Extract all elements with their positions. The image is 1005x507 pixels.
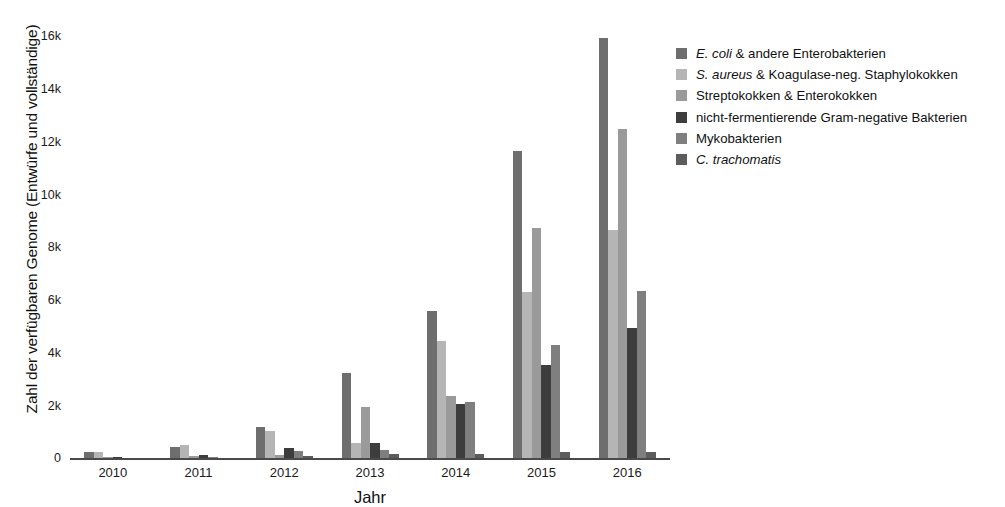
legend-label: S. aureus & Koagulase-neg. Staphylokokke… [696, 68, 958, 81]
bar-group-2014 [413, 36, 499, 458]
bar-group-2015 [499, 36, 585, 458]
y-axis-tick-label: 2k [1, 399, 70, 413]
bar [608, 230, 618, 458]
y-axis-tick-label: 10k [1, 188, 70, 202]
legend-label: C. trachomatis [696, 153, 781, 166]
bar [637, 291, 647, 458]
legend-swatch-icon [676, 48, 687, 59]
legend-swatch-icon [676, 90, 687, 101]
legend-label: Mykobakterien [696, 132, 782, 145]
legend-item-1[interactable]: E. coli & andere Enterobakterien [676, 47, 1001, 61]
x-axis-tick-label: 2016 [584, 465, 670, 480]
legend-item-2[interactable]: S. aureus & Koagulase-neg. Staphylokokke… [676, 68, 1001, 82]
bar [465, 402, 475, 459]
bar [532, 228, 542, 459]
bar [437, 341, 447, 458]
bar [427, 311, 437, 459]
bar [180, 445, 190, 459]
bar [618, 129, 628, 459]
y-axis-tick-label: 6k [1, 293, 70, 307]
y-axis-tick-label: 8k [1, 240, 70, 254]
bar [456, 404, 466, 458]
y-axis-tick-label: 4k [1, 346, 70, 360]
bar [599, 38, 609, 459]
bar [446, 396, 456, 458]
bar [522, 292, 532, 458]
x-axis-tick-label: 2012 [241, 465, 327, 480]
y-axis-title: Zahl der verfügbaren Genome (Entwürfe un… [23, 0, 41, 449]
legend-label: E. coli & andere Enterobakterien [696, 47, 886, 60]
bar-group-2013 [327, 36, 413, 458]
legend-item-4[interactable]: nicht-fermentierende Gram-negative Bakte… [676, 111, 1001, 125]
x-axis-title: Jahr [70, 488, 670, 507]
legend-item-5[interactable]: Mykobakterien [676, 132, 1001, 146]
x-axis-line [70, 458, 670, 460]
bar-group-2011 [156, 36, 242, 458]
bar [361, 407, 371, 458]
bar [370, 443, 380, 459]
x-axis-tick-label: 2010 [70, 465, 156, 480]
bar [342, 373, 352, 459]
x-axis-tick-label: 2015 [499, 465, 585, 480]
plot-area: 02k4k6k8k10k12k14k16k 201020112012201320… [70, 36, 670, 460]
x-axis-tick-label: 2011 [156, 465, 242, 480]
bar-series-container [70, 36, 670, 458]
legend-swatch-icon [676, 154, 687, 165]
y-axis-tick-label: 0 [1, 451, 70, 465]
bar [294, 451, 304, 459]
legend-label: Streptokokken & Enterokokken [696, 89, 877, 102]
bar [84, 452, 94, 459]
bar [513, 151, 523, 458]
bar-group-2010 [70, 36, 156, 458]
y-axis-tick-label: 14k [1, 82, 70, 96]
x-axis-ticks: 2010201120122013201420152016 [70, 465, 670, 480]
bar [541, 365, 551, 459]
bar-group-2012 [241, 36, 327, 458]
bar [284, 448, 294, 459]
y-axis-tick-label: 12k [1, 135, 70, 149]
bar [551, 345, 561, 458]
bar [265, 431, 275, 459]
bar-group-2016 [584, 36, 670, 458]
bar [256, 427, 266, 459]
chart-legend: E. coli & andere EnterobakterienS. aureu… [676, 47, 1001, 174]
y-axis-tick-label: 16k [1, 29, 70, 43]
legend-item-3[interactable]: Streptokokken & Enterokokken [676, 89, 1001, 103]
legend-label: nicht-fermentierende Gram-negative Bakte… [696, 111, 967, 124]
bar-chart-figure: Zahl der verfügbaren Genome (Entwürfe un… [0, 0, 1005, 507]
legend-item-6[interactable]: C. trachomatis [676, 153, 1001, 167]
legend-swatch-icon [676, 69, 687, 80]
legend-swatch-icon [676, 133, 687, 144]
bar [170, 447, 180, 459]
bar [627, 328, 637, 459]
bar [380, 450, 390, 459]
bar [351, 443, 361, 459]
legend-swatch-icon [676, 112, 687, 123]
x-axis-tick-label: 2013 [327, 465, 413, 480]
bar [646, 452, 656, 459]
x-axis-tick-label: 2014 [413, 465, 499, 480]
